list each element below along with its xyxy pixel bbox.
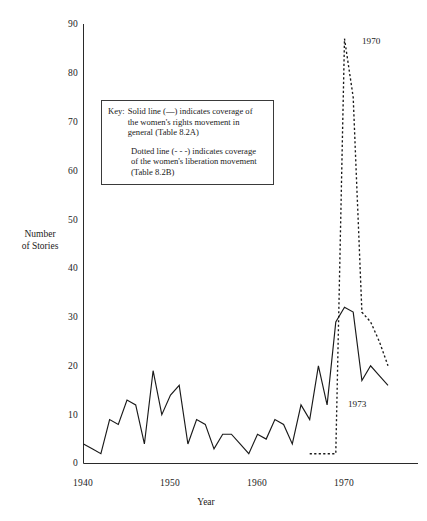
annotation-1973: 1973 [348,399,366,409]
key-dotted-line2: of the women's liberation movement [131,156,267,167]
series-line-womens-liberation [310,39,388,454]
key-dotted-line1: Dotted line (- - -) indicates coverage [131,146,267,157]
series-line-womens-rights [84,307,389,454]
key-dotted-line3: (Table 8.2B) [131,167,267,178]
key-label: Key: [108,106,128,117]
key-solid-line3: general (Table 8.2A) [128,127,253,138]
key-first-paragraph: Key: Solid line (—) indicates coverage o… [108,106,267,138]
key-solid-line2: the women's rights movement in [128,117,253,128]
annotation-1970: 1970 [362,36,380,46]
plot-area [0,0,427,521]
chart-key-box: Key: Solid line (—) indicates coverage o… [101,100,274,185]
chart-figure: 90 80 70 60 50 40 30 20 10 0 1940 1950 1… [0,0,427,521]
key-dotted-description: Dotted line (- - -) indicates coverage o… [131,146,267,178]
key-solid-description: Solid line (—) indicates coverage of the… [128,106,253,138]
key-solid-line1: Solid line (—) indicates coverage of [128,106,253,117]
